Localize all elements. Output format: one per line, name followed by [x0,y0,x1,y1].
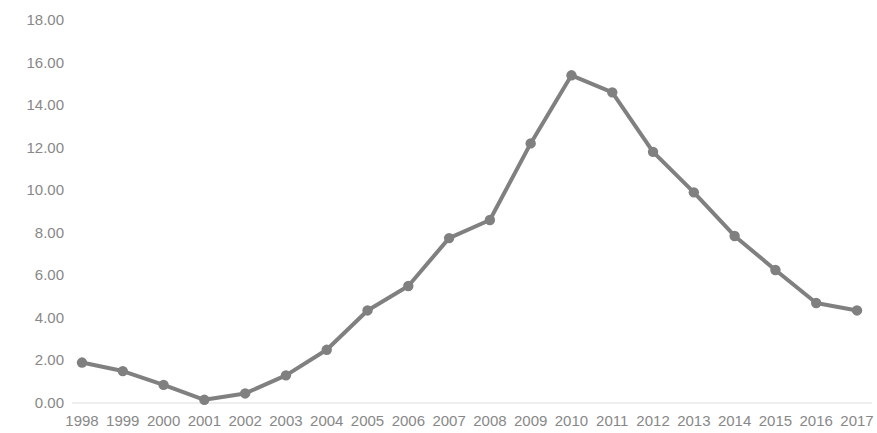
x-tick-label: 2005 [351,412,384,429]
data-point [729,231,739,241]
data-point [158,380,168,390]
x-tick-label: 2011 [596,412,628,429]
data-point [689,187,699,197]
x-tick-label: 2002 [228,412,261,429]
x-tick-label: 2014 [718,412,751,429]
data-point [362,305,372,315]
x-tick-label: 2000 [147,412,180,429]
x-tick-label: 2016 [800,412,833,429]
x-tick-label: 2012 [636,412,669,429]
x-tick-label: 2006 [392,412,425,429]
data-point [240,388,250,398]
data-point [852,305,862,315]
x-tick-label: 2003 [269,412,302,429]
data-point [118,366,128,376]
x-tick-label: 2017 [840,412,873,429]
x-tick-label: 2015 [759,412,792,429]
x-axis: 1998199920002001200220032004200520062007… [0,410,877,433]
data-point [485,215,495,225]
series-markers [77,70,862,405]
data-point [322,345,332,355]
data-point [444,233,454,243]
data-point [525,138,535,148]
data-point [77,357,87,367]
x-tick-label: 1999 [106,412,139,429]
data-point [403,281,413,291]
data-point [281,370,291,380]
data-point [607,87,617,97]
x-tick-label: 2013 [677,412,710,429]
x-tick-label: 1998 [65,412,98,429]
data-point [648,147,658,157]
x-tick-label: 2010 [555,412,588,429]
x-tick-label: 2009 [514,412,547,429]
plot-area [0,0,877,433]
x-tick-label: 2001 [188,412,221,429]
x-tick-label: 2004 [310,412,343,429]
x-tick-label: 2007 [432,412,465,429]
x-tick-label: 2008 [473,412,506,429]
data-point [199,395,209,405]
series-line [82,75,857,399]
data-point [811,298,821,308]
line-chart: 18.0016.0014.0012.0010.008.006.004.002.0… [0,0,877,433]
data-point [566,70,576,80]
data-point [770,265,780,275]
